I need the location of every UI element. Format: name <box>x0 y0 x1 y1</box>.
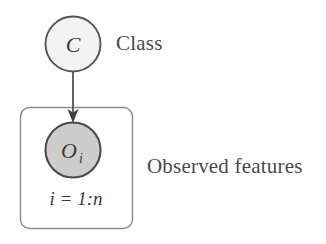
observed-node[interactable]: O i <box>46 123 101 178</box>
class-node-label: C <box>66 32 81 57</box>
plate-index-label: i = 1:n <box>50 188 103 209</box>
diagram-canvas: C O i i = 1:n Class Observed features <box>0 0 326 244</box>
observed-node-subscript: i <box>79 151 83 166</box>
observed-features-side-label: Observed features <box>147 154 303 179</box>
graphical-model-svg: C O i i = 1:n <box>0 0 326 244</box>
edge-class-to-observed <box>68 71 79 123</box>
class-side-label: Class <box>116 31 163 56</box>
class-node[interactable]: C <box>46 17 101 72</box>
observed-node-label: O <box>61 138 77 163</box>
